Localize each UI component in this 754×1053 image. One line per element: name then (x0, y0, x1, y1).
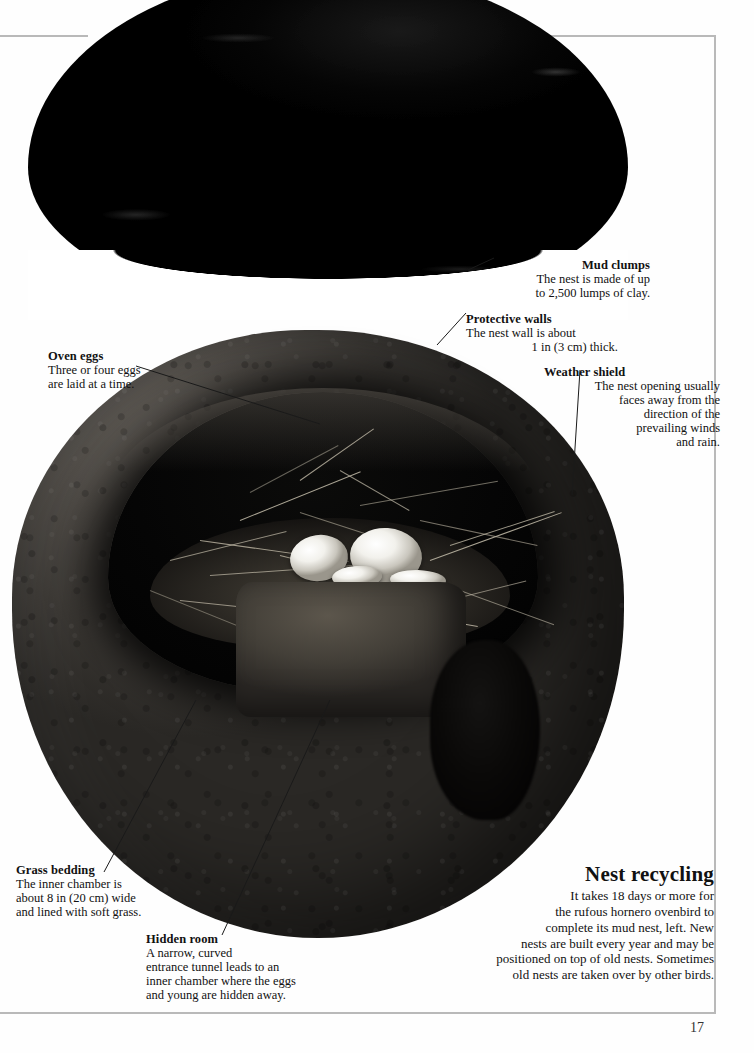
sidebar-body-line: the rufous hornero ovenbird to (444, 904, 714, 920)
annotation-body-line: faces away from the (544, 393, 720, 407)
annotation-heading: Mud clumps (432, 258, 650, 272)
sidebar-body-line: nests are built every year and may be (444, 936, 714, 952)
annotation-body-line: The nest opening usually (544, 379, 720, 393)
annotation-heading: Oven eggs (48, 349, 238, 363)
annotation-body-line: The nest wall is about (466, 326, 666, 340)
page-number: 17 (690, 1020, 704, 1036)
annotation-body-line: prevailing winds (544, 421, 720, 435)
annotation-heading: Weather shield (544, 365, 720, 379)
sidebar-body-line: complete its mud nest, left. New (444, 920, 714, 936)
nest-photograph (0, 0, 716, 960)
annotation-body-line: The nest is made of up (432, 272, 650, 286)
annotation-body-line: 1 in (3 cm) thick. (466, 340, 618, 354)
annotation-body-line: about 8 in (20 cm) wide (16, 891, 216, 905)
annotation-body-line: to 2,500 lumps of clay. (432, 286, 650, 300)
sidebar-body-line: It takes 18 days or more for (444, 888, 714, 904)
annotation-heading: Hidden room (146, 932, 396, 946)
annotation-body-line: and lined with soft grass. (16, 905, 216, 919)
annotation-protective-walls: Protective walls The nest wall is about … (466, 312, 666, 354)
sidebar-heading: Nest recycling (444, 862, 714, 887)
annotation-body-line: The inner chamber is (16, 877, 216, 891)
annotation-weather-shield: Weather shield The nest opening usually … (544, 365, 720, 449)
annotation-body-line: direction of the (544, 407, 720, 421)
page-canvas: Mud clumps The nest is made of up to 2,5… (0, 0, 754, 1053)
page-frame-bottom-rule (0, 1012, 716, 1014)
annotation-body-line: and rain. (544, 435, 720, 449)
annotation-grass-bedding: Grass bedding The inner chamber is about… (16, 863, 216, 919)
annotation-body-line: are laid at a time. (48, 377, 238, 391)
annotation-body-line: inner chamber where the eggs (146, 974, 396, 988)
annotation-heading: Grass bedding (16, 863, 216, 877)
annotation-mud-clumps: Mud clumps The nest is made of up to 2,5… (432, 258, 650, 300)
sidebar-body-line: old nests are taken over by other birds. (444, 967, 714, 983)
annotation-hidden-room: Hidden room A narrow, curved entrance tu… (146, 932, 396, 1002)
annotation-body-line: A narrow, curved (146, 946, 396, 960)
annotation-heading: Protective walls (466, 312, 666, 326)
entrance-tunnel-recess (430, 640, 540, 820)
sidebar-body-line: positioned on top of old nests. Sometime… (444, 951, 714, 967)
annotation-body-line: entrance tunnel leads to an (146, 960, 396, 974)
annotation-body-line: Three or four eggs (48, 363, 238, 377)
annotation-oven-eggs: Oven eggs Three or four eggs are laid at… (48, 349, 238, 391)
nest-recycling-sidebar: Nest recycling It takes 18 days or more … (444, 862, 714, 983)
annotation-body-line: and young are hidden away. (146, 988, 396, 1002)
